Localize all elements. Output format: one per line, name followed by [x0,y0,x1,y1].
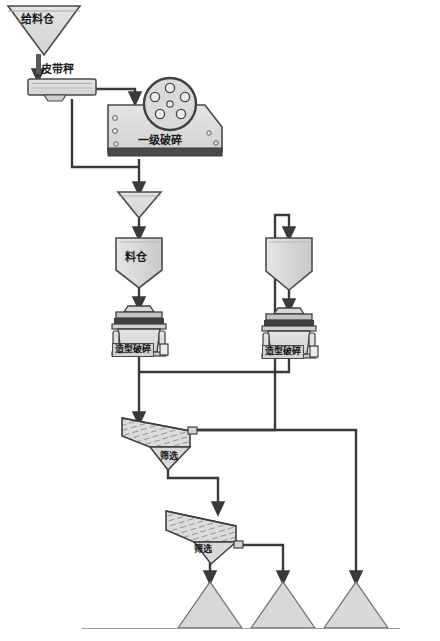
stockpile-1 [178,582,242,628]
stockpile-2 [251,582,315,628]
node-surge-bin-right [266,238,312,290]
node-screen-1 [122,418,197,470]
node-funnel [118,192,161,218]
process-flow-diagram: 给料仓 皮带秤 一级破碎 料仓 造型破碎 造型破碎 筛选 筛选 [0,0,440,641]
label-belt-scale: 皮带秤 [41,64,74,75]
diagram-canvas [0,0,440,641]
label-surge-bin-left: 料仓 [125,252,147,263]
label-screen-2: 筛选 [194,545,212,554]
node-screen-2 [166,511,243,564]
node-belt-scale [28,79,96,101]
stockpile-3 [324,582,388,628]
label-primary-crusher: 一级破碎 [138,135,182,146]
label-shaper-right: 造型破碎 [262,345,304,359]
label-shaper-left: 造型破碎 [112,343,154,357]
stockpile-group [82,582,400,629]
label-feed-bin: 给料仓 [21,14,54,25]
label-screen-1: 筛选 [160,452,178,461]
